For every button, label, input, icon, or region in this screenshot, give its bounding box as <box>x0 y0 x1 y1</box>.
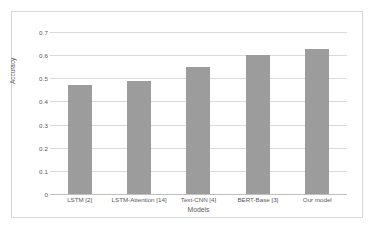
y-axis-tick-labels: 00.10.20.30.40.50.60.7 <box>26 32 48 194</box>
y-axis-tick-label: 0.3 <box>39 121 48 128</box>
y-axis-tick-label: 0.2 <box>39 144 48 151</box>
x-axis-tick-label: Our model <box>303 196 332 203</box>
x-axis-tick-label: LSTM [2] <box>67 196 92 203</box>
y-axis-tick-label: 0.7 <box>39 29 48 36</box>
y-axis-tick-label: 0.5 <box>39 75 48 82</box>
bars-layer <box>50 32 347 194</box>
bar[interactable] <box>68 85 92 194</box>
bar[interactable] <box>127 81 151 194</box>
bar-slot <box>288 32 347 194</box>
x-axis-tick-label: Text-CNN [4] <box>181 196 216 203</box>
bar[interactable] <box>186 67 210 194</box>
bar[interactable] <box>246 55 270 194</box>
bar-slot <box>109 32 168 194</box>
bar-slot <box>169 32 228 194</box>
gridline <box>50 194 347 195</box>
bar-chart-figure: Accuracy 00.10.20.30.40.50.60.7 LSTM [2]… <box>11 11 363 218</box>
bar-slot <box>228 32 287 194</box>
y-axis-tick-label: 0.4 <box>39 98 48 105</box>
bar[interactable] <box>305 49 329 194</box>
plot-region <box>50 32 347 194</box>
y-axis-title: Accuracy <box>9 58 16 84</box>
x-axis-title: Models <box>50 206 347 213</box>
x-axis-tick-label: BERT-Base [3] <box>237 196 278 203</box>
y-axis-tick-label: 0.1 <box>39 167 48 174</box>
x-axis-tick-label: LSTM-Attention [14] <box>112 196 167 203</box>
bar-slot <box>50 32 109 194</box>
y-axis-tick-label: 0 <box>44 191 48 198</box>
y-axis-tick-label: 0.6 <box>39 52 48 59</box>
